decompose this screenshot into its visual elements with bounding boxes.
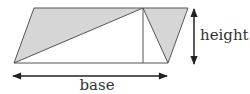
height-label: height — [200, 26, 249, 44]
base-label: base — [79, 76, 114, 94]
shaded-right-triangle — [143, 8, 188, 63]
parallelogram-diagram: height base — [0, 0, 250, 94]
